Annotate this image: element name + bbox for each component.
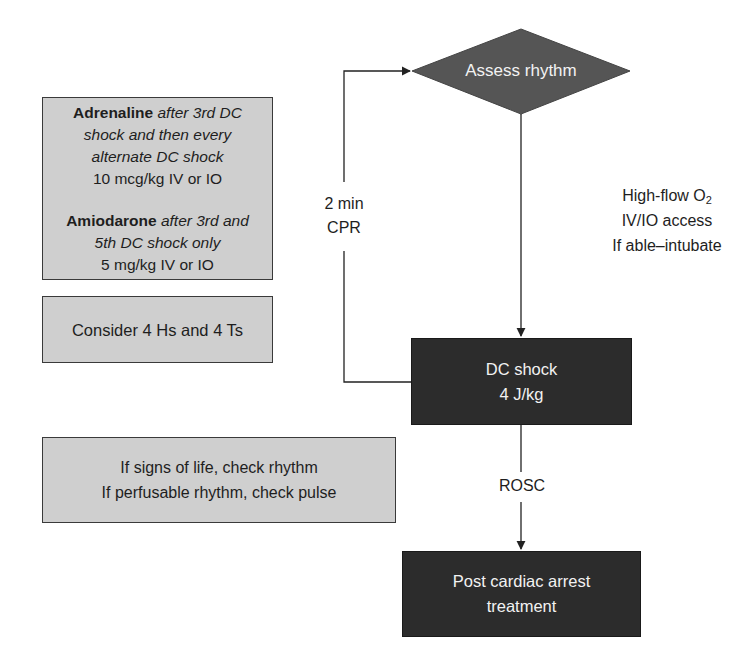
adrenaline-timing-1: after 3rd DC <box>158 104 242 121</box>
side-actions-text: High-flow O2 IV/IO access If able–intuba… <box>585 183 749 258</box>
amiodarone-heading: Amiodarone after 3rd and <box>66 210 249 232</box>
dc-shock-title: DC shock <box>486 357 558 382</box>
dc-shock-box: DC shock 4 J/kg <box>411 338 632 425</box>
loop-cpr-upper <box>344 71 410 182</box>
signs-of-life-line1: If signs of life, check rhythm <box>120 455 317 480</box>
signs-of-life-box: If signs of life, check rhythm If perfus… <box>42 437 396 523</box>
amiodarone-name: Amiodarone <box>66 212 156 229</box>
adrenaline-dose: 10 mcg/kg IV or IO <box>93 168 222 190</box>
post-arrest-line1: Post cardiac arrest <box>453 569 591 594</box>
loop-cpr-lower <box>344 251 411 382</box>
intubate-action: If able–intubate <box>585 233 749 258</box>
amiodarone-dose: 5 mg/kg IV or IO <box>101 254 214 276</box>
adrenaline-name: Adrenaline <box>73 104 153 121</box>
adrenaline-block: Adrenaline after 3rd DC shock and then e… <box>73 102 242 190</box>
reversible-causes-text: Consider 4 Hs and 4 Ts <box>72 319 243 341</box>
drug-dosing-box: Adrenaline after 3rd DC shock and then e… <box>42 97 273 280</box>
cpr-duration: 2 min <box>321 192 367 216</box>
post-arrest-line2: treatment <box>487 594 557 619</box>
amiodarone-timing-1: after 3rd and <box>161 212 249 229</box>
rosc-label: ROSC <box>496 475 548 497</box>
signs-of-life-line2: If perfusable rhythm, check pulse <box>102 480 337 505</box>
dc-shock-dose: 4 J/kg <box>499 382 543 407</box>
flowchart-canvas: Assess rhythm 2 min CPR High-flow O2 IV/… <box>0 0 754 669</box>
post-arrest-treatment-box: Post cardiac arrest treatment <box>402 551 641 637</box>
adrenaline-timing-3: alternate DC shock <box>92 146 224 168</box>
assess-rhythm-label: Assess rhythm <box>412 58 630 84</box>
adrenaline-timing-2: shock and then every <box>84 124 231 146</box>
cpr-text: CPR <box>321 216 367 240</box>
amiodarone-timing-2: 5th DC shock only <box>95 232 221 254</box>
oxygen-action: High-flow O2 <box>585 183 749 208</box>
adrenaline-heading: Adrenaline after 3rd DC <box>73 102 242 124</box>
access-action: IV/IO access <box>585 208 749 233</box>
amiodarone-block: Amiodarone after 3rd and 5th DC shock on… <box>66 210 249 276</box>
reversible-causes-box: Consider 4 Hs and 4 Ts <box>42 296 273 363</box>
cpr-loop-label: 2 min CPR <box>321 192 367 240</box>
